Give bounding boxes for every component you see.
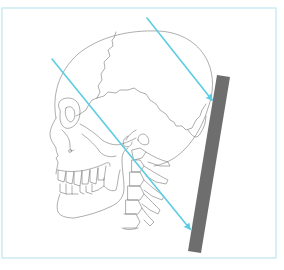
figure-canvas (0, 0, 284, 270)
